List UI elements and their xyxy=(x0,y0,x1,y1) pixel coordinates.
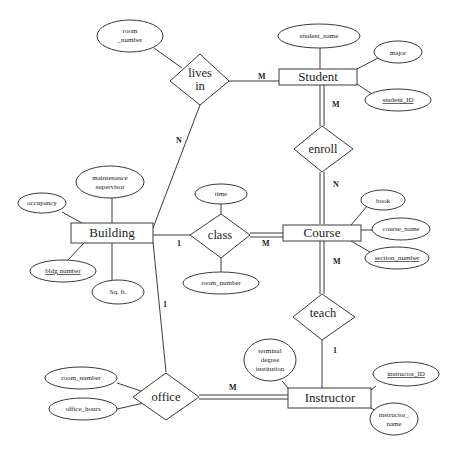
attribute-label: room_number xyxy=(61,374,101,382)
attribute-student-id[interactable]: student_ID xyxy=(365,89,431,111)
cardinality-building-office: 1 xyxy=(163,300,167,309)
attribute-maintenance-supervisor[interactable]: maintenance supervisor xyxy=(76,166,144,198)
attribute-label-line2: degree xyxy=(261,356,280,364)
cardinality-lives-in-building: N xyxy=(176,136,182,145)
relationship-class[interactable]: class xyxy=(190,214,250,258)
cardinality-office-instructor: M xyxy=(229,383,237,392)
attribute-office-hours[interactable]: office_hours xyxy=(49,398,117,420)
attribute-label-key: student_ID xyxy=(382,96,413,104)
cardinality-building-class: 1 xyxy=(177,239,181,248)
attribute-student-name[interactable]: student_name xyxy=(278,24,360,48)
entity-course[interactable]: Course xyxy=(283,225,361,241)
attribute-label-line1: instructor_ xyxy=(379,411,410,419)
entity-label: Course xyxy=(304,225,341,240)
relationship-teach[interactable]: teach xyxy=(293,294,355,340)
entity-instructor[interactable]: Instructor xyxy=(288,388,371,408)
relationship-lives-in[interactable]: lives in xyxy=(170,54,229,105)
attribute-instructor-id[interactable]: instructor_ID xyxy=(373,362,439,386)
cardinality-class-course: M xyxy=(262,239,270,248)
entity-label: Student xyxy=(298,69,338,84)
cardinality-course-teach: M xyxy=(333,257,341,266)
attribute-bldg-number[interactable]: bldg number xyxy=(30,260,96,282)
attribute-label-line1: maintenance xyxy=(92,174,127,182)
entity-building[interactable]: Building xyxy=(71,223,153,243)
attribute-sq-ft[interactable]: Sq. ft. xyxy=(92,280,144,304)
cardinality-lives-in-student: M xyxy=(258,72,266,81)
attribute-occupancy[interactable]: occupancy xyxy=(18,193,66,213)
attribute-course-name[interactable]: course_name xyxy=(372,218,430,240)
attribute-label-key: bldg number xyxy=(45,267,81,275)
attribute-class-room-number[interactable]: room_number xyxy=(183,272,259,294)
attribute-time[interactable]: time xyxy=(195,184,247,204)
entity-student[interactable]: Student xyxy=(279,69,357,85)
relationship-label: class xyxy=(208,228,232,242)
relationship-office[interactable]: office xyxy=(133,373,199,420)
attribute-label: room_number xyxy=(201,279,241,287)
attribute-label-line2: name xyxy=(386,420,401,428)
attribute-label: office_hours xyxy=(65,405,101,413)
entity-label: Instructor xyxy=(305,390,356,405)
attribute-terminal-degree-institution[interactable]: terminal degree institution xyxy=(244,339,296,381)
attribute-lives-in-room-number[interactable]: room _number xyxy=(97,20,163,52)
attribute-label-line3: institution xyxy=(256,365,285,373)
attribute-label: time xyxy=(215,190,227,198)
attribute-instructor-name[interactable]: instructor_ name xyxy=(370,403,418,435)
relationship-label-line2: in xyxy=(195,79,205,93)
relationship-label: enroll xyxy=(308,142,338,156)
relationship-enroll[interactable]: enroll xyxy=(294,126,353,172)
relationship-label: office xyxy=(152,390,181,404)
attribute-label-line1: room xyxy=(123,27,138,35)
attribute-label-key: section_number xyxy=(375,254,420,262)
attribute-label-line2: supervisor xyxy=(95,183,125,191)
attribute-label: student_name xyxy=(300,32,339,40)
attribute-label: book xyxy=(376,197,391,205)
attribute-section-number[interactable]: section_number xyxy=(365,247,429,269)
attribute-book[interactable]: book xyxy=(361,190,405,210)
er-diagram: Student Building Course Instructor lives… xyxy=(0,0,460,454)
attribute-label: major xyxy=(390,49,407,57)
attribute-label: occupancy xyxy=(27,199,57,207)
cardinality-enroll-course: N xyxy=(333,180,339,189)
attribute-label-key: instructor_ID xyxy=(387,370,425,378)
relationship-label-line1: lives xyxy=(188,66,212,80)
attribute-major[interactable]: major xyxy=(374,41,422,63)
attribute-label-line1: terminal xyxy=(258,347,281,355)
attribute-label: Sq. ft. xyxy=(110,288,127,296)
attribute-office-room-number[interactable]: room_number xyxy=(45,367,117,389)
relationship-label: teach xyxy=(310,306,337,320)
attribute-label-line2: _number xyxy=(117,36,144,44)
cardinality-teach-instructor: 1 xyxy=(333,346,337,355)
entity-label: Building xyxy=(89,225,135,240)
attribute-label: course_name xyxy=(383,225,420,233)
cardinality-student-enroll: M xyxy=(332,100,340,109)
